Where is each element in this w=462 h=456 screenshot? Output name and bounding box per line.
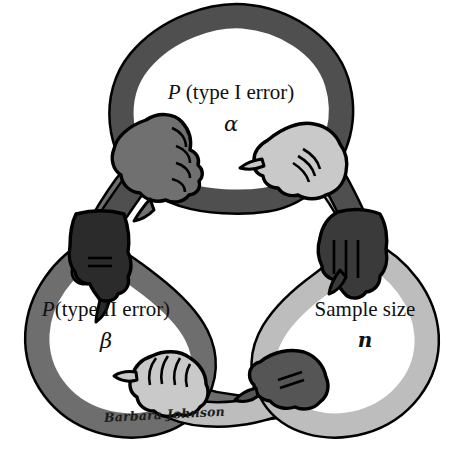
interlocking-arms-diagram: [0, 0, 462, 456]
figure-root: P (type I error) α P(type II error) β Sa…: [0, 0, 462, 456]
